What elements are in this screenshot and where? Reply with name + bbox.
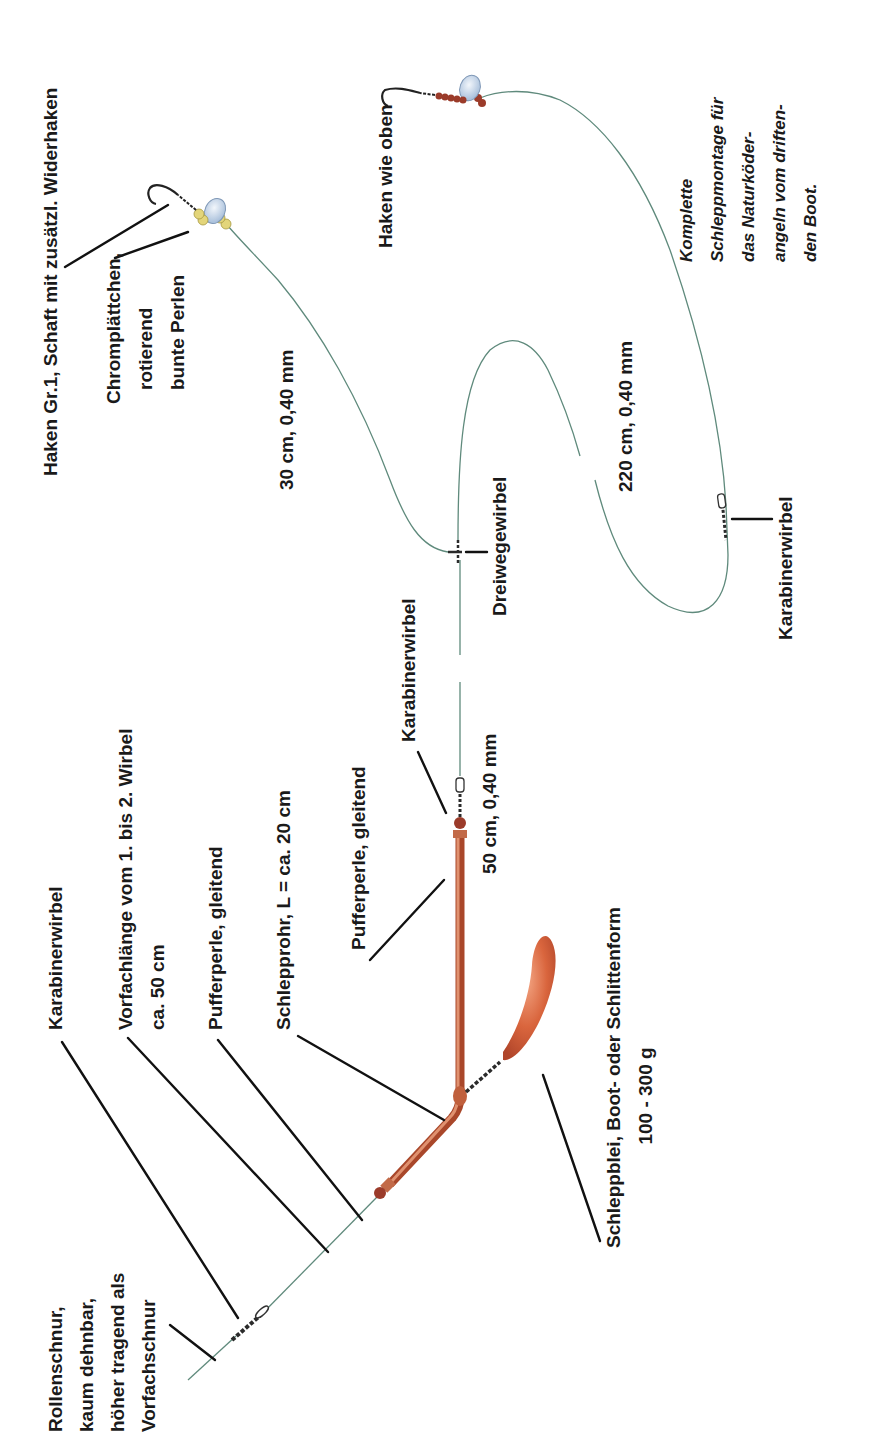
label-chromplaettchen: Chromplättchen, rotierend bunte Perlen [103, 253, 188, 404]
label-karabinerwirbel-1: Karabinerwirbel [45, 886, 66, 1030]
svg-text:Komplette: Komplette [677, 179, 696, 262]
hook-assembly-upper [148, 185, 231, 229]
svg-text:höher tragend als: höher tragend als [107, 1273, 128, 1432]
hook-icon-2 [382, 88, 420, 106]
label-schlepprohr: Schlepprohr, L = ca. 20 cm [273, 790, 294, 1030]
segment-220cm-line-2 [480, 92, 728, 613]
label-segment-220cm: 220 cm, 0,40 mm [615, 341, 636, 492]
pufferperle-bead-2 [454, 817, 466, 829]
leader-pufferperle-1 [218, 1040, 362, 1220]
label-segment-50cm: 50 cm, 0,40 mm [479, 734, 500, 874]
trolling-rig-diagram: Rollenschnur, kaum dehnbar, höher tragen… [0, 0, 870, 1438]
label-rollenschnur: Rollenschnur, kaum dehnbar, höher tragen… [45, 1273, 159, 1432]
label-dreiwegewirbel: Dreiwegewirbel [489, 477, 510, 616]
leader-chromplaettchen [115, 232, 188, 258]
svg-text:Rollenschnur,: Rollenschnur, [45, 1306, 66, 1432]
segment-30cm-line [228, 226, 448, 552]
label-vorfachlaenge: Vorfachlänge vom 1. bis 2. Wirbel ca. 50… [115, 729, 168, 1030]
label-karabinerwirbel-3: Karabinerwirbel [775, 496, 796, 640]
label-schleppblei: Schleppblei, Boot- oder Schlittenform 10… [603, 907, 656, 1248]
labels: Rollenschnur, kaum dehnbar, höher tragen… [40, 88, 820, 1432]
tube-knee-ring [453, 1086, 467, 1106]
main-line [188, 1196, 378, 1380]
svg-text:ca. 50 cm: ca. 50 cm [147, 944, 168, 1030]
svg-text:Chromplättchen,: Chromplättchen, [103, 253, 124, 404]
label-haken: Haken Gr.1, Schaft mit zusätzl. Widerhak… [40, 88, 61, 476]
label-pufferperle-1: Pufferperle, gleitend [205, 846, 226, 1030]
karabinerwirbel-swivel-2 [456, 778, 464, 817]
schleppblei-sinker [466, 936, 556, 1092]
leader-karabinerwirbel-1 [62, 1042, 238, 1318]
label-karabinerwirbel-2: Karabinerwirbel [398, 598, 419, 742]
pufferperle-bead-1 [374, 1187, 386, 1199]
svg-text:bunte Perlen: bunte Perlen [167, 275, 188, 390]
label-haken-wie-oben: Haken wie oben [375, 104, 396, 248]
karabinerwirbel-swivel-3 [717, 494, 726, 540]
svg-text:Schleppblei, Boot- oder Schlit: Schleppblei, Boot- oder Schlittenform [603, 907, 624, 1248]
svg-text:Vorfachlänge vom 1. bis 2. Wir: Vorfachlänge vom 1. bis 2. Wirbel [115, 729, 136, 1030]
svg-text:rotierend: rotierend [135, 308, 156, 390]
segment-220cm-line [458, 341, 580, 540]
leader-schlepprohr [298, 1036, 444, 1120]
leader-pufferperle-2 [370, 880, 444, 960]
leader-karabinerwirbel-2 [418, 752, 446, 813]
karabinerwirbel-swivel-1 [232, 1304, 270, 1340]
hook-icon [148, 185, 178, 204]
svg-text:100 - 300 g: 100 - 300 g [635, 1047, 656, 1144]
svg-text:Schleppmontage für: Schleppmontage für [708, 96, 727, 262]
tube-end-cap [453, 830, 467, 838]
caption: Komplette Schleppmontage für das Naturkö… [677, 96, 820, 262]
svg-text:den Boot.: den Boot. [801, 184, 820, 262]
schlepprohr-tube [380, 830, 467, 1193]
leader-vorfachlaenge [128, 1038, 328, 1252]
svg-text:das Naturköder-: das Naturköder- [739, 131, 758, 262]
label-segment-30cm: 30 cm, 0,40 mm [276, 350, 297, 490]
hook-assembly-lower [382, 72, 486, 107]
svg-text:kaum dehnbar,: kaum dehnbar, [76, 1298, 97, 1432]
svg-text:Vorfachschnur: Vorfachschnur [138, 1299, 159, 1432]
leader-rollenschnur [170, 1325, 215, 1360]
label-pufferperle-2: Pufferperle, gleitend [348, 766, 369, 950]
svg-text:angeln vom driften-: angeln vom driften- [770, 104, 789, 262]
leader-schleppblei [543, 1075, 600, 1241]
